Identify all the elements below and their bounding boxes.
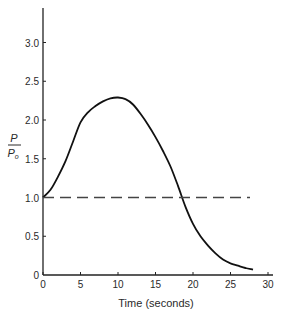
line-chart: 05101520253000.51.01.52.02.53.0 Time (se… xyxy=(0,0,284,318)
pressure-ratio-curve xyxy=(43,97,253,269)
y-axis-label-numerator: P xyxy=(10,132,18,144)
y-tick-label: 0.5 xyxy=(25,231,39,242)
x-tick-label: 25 xyxy=(225,279,237,290)
series-lines xyxy=(43,97,253,269)
x-tick-label: 0 xyxy=(40,279,46,290)
y-axis-label-denominator: Po xyxy=(7,147,18,160)
y-axis-label: P Po xyxy=(7,132,21,160)
y-tick-label: 1.5 xyxy=(25,154,39,165)
x-tick-label: 10 xyxy=(112,279,124,290)
y-tick-label: 1.0 xyxy=(25,193,39,204)
x-tick-label: 5 xyxy=(78,279,84,290)
x-tick-label: 30 xyxy=(262,279,274,290)
x-tick-label: 20 xyxy=(187,279,199,290)
y-tick-label: 2.0 xyxy=(25,115,39,126)
y-tick-label: 3.0 xyxy=(25,38,39,49)
tick-marks: 05101520253000.51.01.52.02.53.0 xyxy=(25,38,274,291)
y-tick-label: 2.5 xyxy=(25,76,39,87)
x-tick-label: 15 xyxy=(150,279,162,290)
x-axis-label: Time (seconds) xyxy=(118,297,193,309)
y-tick-label: 0 xyxy=(33,270,39,281)
